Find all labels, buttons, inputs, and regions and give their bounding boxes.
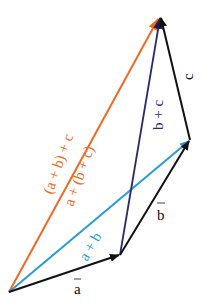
label-a-plus-b: a + b [76, 229, 105, 263]
label-a: a [74, 281, 81, 297]
label-b-plus-c: b + c [150, 100, 166, 130]
vector-diagram: a b c a + b b + c (a + b) + c a + (b + c… [0, 0, 203, 305]
label-c: c [180, 73, 196, 80]
label-b: b [157, 207, 165, 223]
